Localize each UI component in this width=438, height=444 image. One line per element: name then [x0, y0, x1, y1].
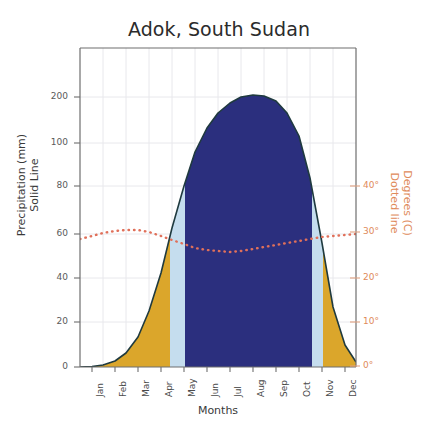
y-tick-left-0: 0 — [38, 362, 68, 371]
y-tick-left-200: 200 — [38, 92, 68, 101]
climate-chart: Adok, South Sudan Precipitation (mm) Sol… — [0, 0, 438, 444]
x-tick-aug: Aug — [257, 379, 266, 397]
x-axis-ticks — [92, 367, 345, 372]
y-tick-left-20: 20 — [38, 317, 68, 326]
y-tick-right-20: 20° — [363, 273, 393, 282]
x-tick-mar: Mar — [142, 380, 151, 397]
y-tick-left-60: 60 — [38, 229, 68, 238]
x-tick-dec: Dec — [349, 380, 358, 397]
x-tick-jan: Jan — [96, 383, 105, 397]
x-tick-jun: Jun — [211, 383, 220, 397]
y-tick-right-10: 10° — [363, 317, 393, 326]
x-tick-nov: Nov — [326, 379, 335, 397]
y-tick-right-30: 30° — [363, 227, 393, 236]
y-tick-left-100: 100 — [38, 138, 68, 147]
y-tick-right-0: 0° — [363, 361, 393, 370]
x-tick-jul: Jul — [234, 386, 243, 397]
x-tick-feb: Feb — [119, 381, 128, 397]
y-axis-right-ticks — [350, 186, 360, 366]
x-tick-may: May — [188, 378, 197, 397]
y-tick-left-80: 80 — [38, 181, 68, 190]
x-tick-sep: Sep — [280, 380, 289, 397]
x-tick-apr: Apr — [165, 381, 174, 397]
precipitation-area-fills — [80, 95, 356, 367]
plot-area — [0, 0, 438, 444]
y-axis-left-ticks — [74, 97, 80, 367]
x-tick-oct: Oct — [303, 381, 312, 397]
y-tick-left-40: 40 — [38, 273, 68, 282]
y-tick-right-40: 40° — [363, 181, 393, 190]
